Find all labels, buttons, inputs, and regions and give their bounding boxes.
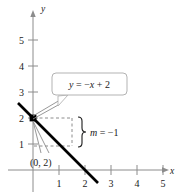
callout-leader-line-1 bbox=[33, 100, 60, 116]
callout-tail bbox=[58, 95, 68, 106]
x-tick-label-1: 1 bbox=[57, 178, 62, 189]
y-tick-label-5: 5 bbox=[19, 35, 24, 46]
callout-leader-lines bbox=[33, 95, 68, 119]
x-tick-label-5: 5 bbox=[161, 178, 166, 189]
x-axis-ticks-group: 1 2 3 4 5 bbox=[57, 165, 166, 189]
x-tick-label-2: 2 bbox=[83, 178, 88, 189]
callout-equation-text: y = −x + 2 bbox=[68, 79, 110, 90]
x-axis-label: x bbox=[169, 166, 175, 176]
y-tick-label-3: 3 bbox=[19, 87, 24, 98]
rise-run-dashed-box bbox=[34, 118, 72, 146]
graph-figure: 5 4 3 2 1 1 2 3 4 5 y x bbox=[0, 0, 179, 195]
y-axis-label: y bbox=[40, 4, 46, 14]
x-tick-label-4: 4 bbox=[135, 178, 140, 189]
coordinate-plane-svg: 5 4 3 2 1 1 2 3 4 5 y x bbox=[0, 0, 179, 195]
callout-leader-line-2 bbox=[33, 104, 60, 119]
equation-callout-box[interactable]: y = −x + 2 y = −x + 2 bbox=[52, 73, 127, 95]
slope-annotation-label: m = −1 bbox=[90, 127, 119, 138]
y-axis-ticks-group: 5 4 3 2 1 bbox=[19, 35, 38, 150]
y-tick-label-1: 1 bbox=[19, 139, 24, 150]
y-tick-label-4: 4 bbox=[19, 61, 24, 72]
y-axis-arrowhead bbox=[30, 10, 35, 17]
y-tick-label-2: 2 bbox=[19, 113, 24, 124]
x-tick-label-3: 3 bbox=[109, 178, 114, 189]
slope-brace bbox=[78, 117, 86, 147]
intercept-point-label: (0, 2) bbox=[30, 157, 52, 169]
